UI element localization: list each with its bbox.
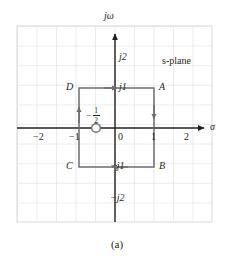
ytick-label-j2: j2 [119,52,127,62]
ytick-label--j1: −j1 [110,161,125,171]
zero-label-fraction: 1 2 [93,107,100,124]
xtick-label-0: 0 [118,132,123,142]
zero-value-label: − 1 2 [86,107,100,124]
xtick-label--2: −2 [33,132,44,142]
contour-corner-label-B: B [159,161,165,171]
xtick-label-1: 1 [151,132,156,142]
contour-corner-label-C: C [66,161,73,171]
s-plane-figure: jω σ s-plane −2 −1 0 1 2 j2 j1 −j1 −j2 D… [0,0,234,266]
contour-corner-label-A: A [159,82,165,92]
zero-label-minus-sign: − [86,111,91,120]
xtick-label-2: 2 [184,132,189,142]
ytick-label--j2: −j2 [110,193,125,203]
figure-caption: (a) [0,238,234,250]
sigma-axis-label: σ [210,122,215,132]
s-plane-label: s-plane [162,56,191,66]
fraction-numerator: 1 [94,107,98,115]
jomega-axis-label: jω [104,11,114,21]
ytick-label-j1: j1 [119,82,127,92]
contour-corner-label-D: D [66,82,73,92]
fraction-denominator: 2 [94,116,98,124]
zero-marker-icon [92,124,101,133]
xtick-label--1: −1 [69,132,80,142]
